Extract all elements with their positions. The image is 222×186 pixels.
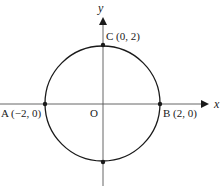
point-b [158,102,162,106]
point-d [101,160,105,164]
circle [45,46,160,161]
point-c [101,43,105,47]
point-a [43,102,47,106]
point-c-label: C (0, 2) [106,30,140,43]
x-axis-label: x [213,97,220,111]
coordinate-diagram: x y O A (−2, 0) B (2, 0) C (0, 2) [0,0,222,186]
origin-label: O [90,107,98,119]
point-a-label: A (−2, 0) [1,107,41,120]
point-b-label: B (2, 0) [163,107,197,120]
y-axis-label: y [97,1,104,15]
